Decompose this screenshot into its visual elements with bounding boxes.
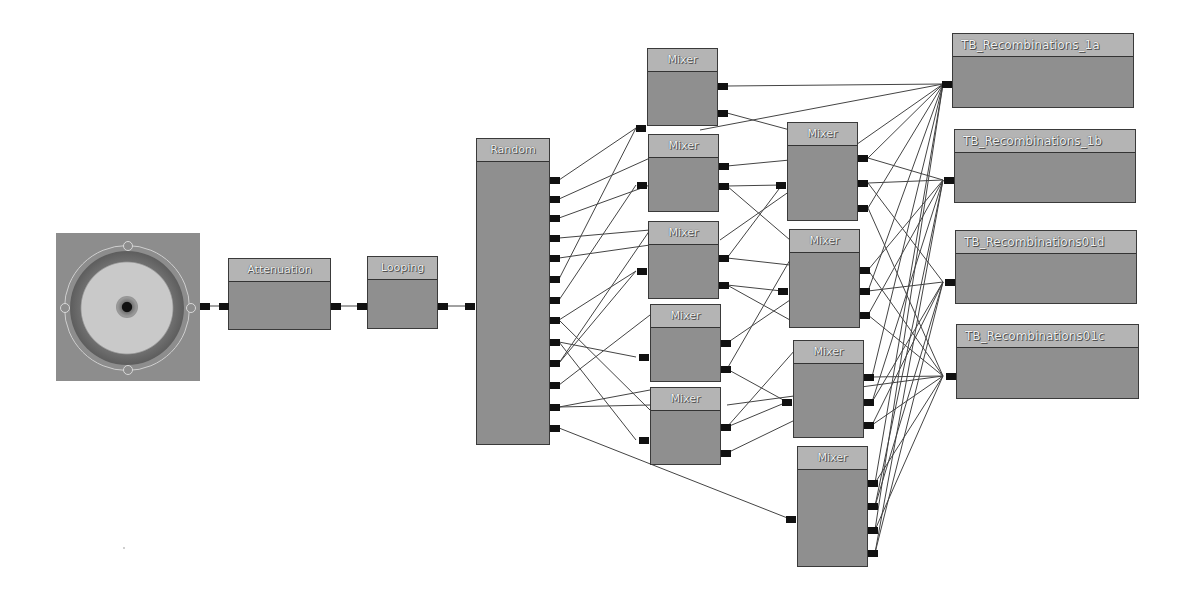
- looping-output-pin[interactable]: [357, 303, 367, 310]
- node-title: Mixer: [651, 305, 720, 328]
- random-input-pin-2[interactable]: [550, 196, 560, 203]
- mixer-5-output-pin[interactable]: [639, 437, 649, 444]
- wave-1a-output-pin[interactable]: [942, 81, 952, 88]
- mixer-node-1[interactable]: Mixer: [647, 48, 718, 126]
- mixer-2-output-pin[interactable]: [637, 182, 647, 189]
- node-title: Looping: [368, 257, 437, 280]
- mixer-3-input-pin-2[interactable]: [719, 282, 729, 289]
- node-title: Attenuation: [229, 259, 330, 282]
- mixer-2-input-pin-1[interactable]: [719, 163, 729, 170]
- node-title: Mixer: [648, 49, 717, 72]
- wave-node-tb-recombinations-1b[interactable]: TB_Recombinations_1b: [954, 129, 1136, 203]
- attenuation-output-pin[interactable]: [219, 303, 229, 310]
- mixer-node-4[interactable]: Mixer: [650, 304, 721, 382]
- mixer-4-input-pin-2[interactable]: [721, 366, 731, 373]
- wave-01d-output-pin[interactable]: [945, 279, 955, 286]
- looping-node[interactable]: Looping: [367, 256, 438, 329]
- mixer-8-input-pin-1[interactable]: [864, 374, 874, 381]
- node-title: Mixer: [788, 123, 857, 146]
- random-input-pin-11[interactable]: [550, 382, 560, 389]
- mixer-6-input-pin-2[interactable]: [858, 180, 868, 187]
- node-title: Random: [477, 139, 549, 162]
- mixer-1-input-pin-2[interactable]: [718, 110, 728, 117]
- random-input-pin-5[interactable]: [550, 255, 560, 262]
- mixer-9-output-pin[interactable]: [786, 516, 796, 523]
- sound-cue-output-node[interactable]: [56, 233, 200, 381]
- mixer-9-input-pin-2[interactable]: [868, 503, 878, 510]
- node-title: TB_Recombinations01c: [957, 325, 1138, 348]
- mixer-9-input-pin-1[interactable]: [868, 480, 878, 487]
- speaker-lug: [123, 241, 133, 251]
- random-node[interactable]: Random: [476, 138, 550, 445]
- node-title: Mixer: [649, 135, 718, 158]
- random-input-pin-10[interactable]: [550, 360, 560, 367]
- mixer-6-input-pin-3[interactable]: [858, 205, 868, 212]
- mixer-node-9[interactable]: Mixer: [797, 446, 868, 567]
- speaker-lug: [186, 303, 196, 313]
- random-input-pin-3[interactable]: [550, 215, 560, 222]
- speaker-cap: [116, 296, 138, 318]
- node-title: Mixer: [798, 447, 867, 470]
- wave-01c-output-pin[interactable]: [946, 373, 956, 380]
- node-title: Mixer: [794, 341, 863, 364]
- mixer-node-6[interactable]: Mixer: [787, 122, 858, 221]
- mixer-6-output-pin[interactable]: [776, 182, 786, 189]
- speaker-input-pin[interactable]: [200, 303, 210, 310]
- mixer-8-output-pin[interactable]: [782, 399, 792, 406]
- mixer-8-input-pin-3[interactable]: [864, 422, 874, 429]
- canvas-artifact-dot: [123, 547, 125, 549]
- mixer-4-output-pin[interactable]: [639, 354, 649, 361]
- wave-node-tb-recombinations01d[interactable]: TB_Recombinations01d: [955, 230, 1137, 304]
- mixer-1-input-pin-1[interactable]: [718, 83, 728, 90]
- random-input-pin-9[interactable]: [550, 339, 560, 346]
- mixer-node-3[interactable]: Mixer: [648, 221, 719, 299]
- node-title: TB_Recombinations_1a: [953, 34, 1133, 57]
- node-title: Mixer: [651, 388, 720, 411]
- mixer-7-input-pin-2[interactable]: [860, 288, 870, 295]
- random-input-pin-6[interactable]: [550, 276, 560, 283]
- mixer-8-input-pin-2[interactable]: [864, 399, 874, 406]
- random-input-pin-12[interactable]: [550, 404, 560, 411]
- node-title: TB_Recombinations_1b: [955, 130, 1135, 153]
- mixer-7-output-pin[interactable]: [778, 288, 788, 295]
- mixer-3-output-pin[interactable]: [637, 268, 647, 275]
- node-title: Mixer: [790, 230, 859, 253]
- random-input-pin-8[interactable]: [550, 317, 560, 324]
- mixer-3-input-pin-1[interactable]: [719, 255, 729, 262]
- mixer-9-input-pin-3[interactable]: [868, 527, 878, 534]
- wave-node-tb-recombinations01c[interactable]: TB_Recombinations01c: [956, 324, 1139, 399]
- looping-input-pin[interactable]: [438, 303, 448, 310]
- random-input-pin-4[interactable]: [550, 235, 560, 242]
- attenuation-node[interactable]: Attenuation: [228, 258, 331, 330]
- mixer-node-5[interactable]: Mixer: [650, 387, 721, 465]
- node-title: Mixer: [649, 222, 718, 245]
- sound-cue-graph-canvas[interactable]: Attenuation Looping Random Mixer Mixer M…: [0, 0, 1196, 599]
- random-input-pin-7[interactable]: [550, 297, 560, 304]
- attenuation-input-pin[interactable]: [331, 303, 341, 310]
- mixer-7-input-pin-1[interactable]: [860, 267, 870, 274]
- speaker-lug: [60, 303, 70, 313]
- mixer-node-8[interactable]: Mixer: [793, 340, 864, 438]
- random-output-pin[interactable]: [465, 303, 475, 310]
- mixer-6-input-pin-1[interactable]: [858, 155, 868, 162]
- mixer-1-output-pin[interactable]: [636, 125, 646, 132]
- mixer-7-input-pin-3[interactable]: [860, 312, 870, 319]
- mixer-5-input-pin-1[interactable]: [721, 424, 731, 431]
- random-input-pin-13[interactable]: [550, 425, 560, 432]
- mixer-9-input-pin-4[interactable]: [868, 550, 878, 557]
- wave-node-tb-recombinations-1a[interactable]: TB_Recombinations_1a: [952, 33, 1134, 108]
- wave-1b-output-pin[interactable]: [944, 177, 954, 184]
- mixer-node-7[interactable]: Mixer: [789, 229, 860, 328]
- node-title: TB_Recombinations01d: [956, 231, 1136, 254]
- random-input-pin-1[interactable]: [550, 177, 560, 184]
- speaker-lug: [123, 365, 133, 375]
- mixer-node-2[interactable]: Mixer: [648, 134, 719, 212]
- mixer-5-input-pin-2[interactable]: [721, 450, 731, 457]
- mixer-4-input-pin-1[interactable]: [721, 340, 731, 347]
- mixer-2-input-pin-2[interactable]: [719, 183, 729, 190]
